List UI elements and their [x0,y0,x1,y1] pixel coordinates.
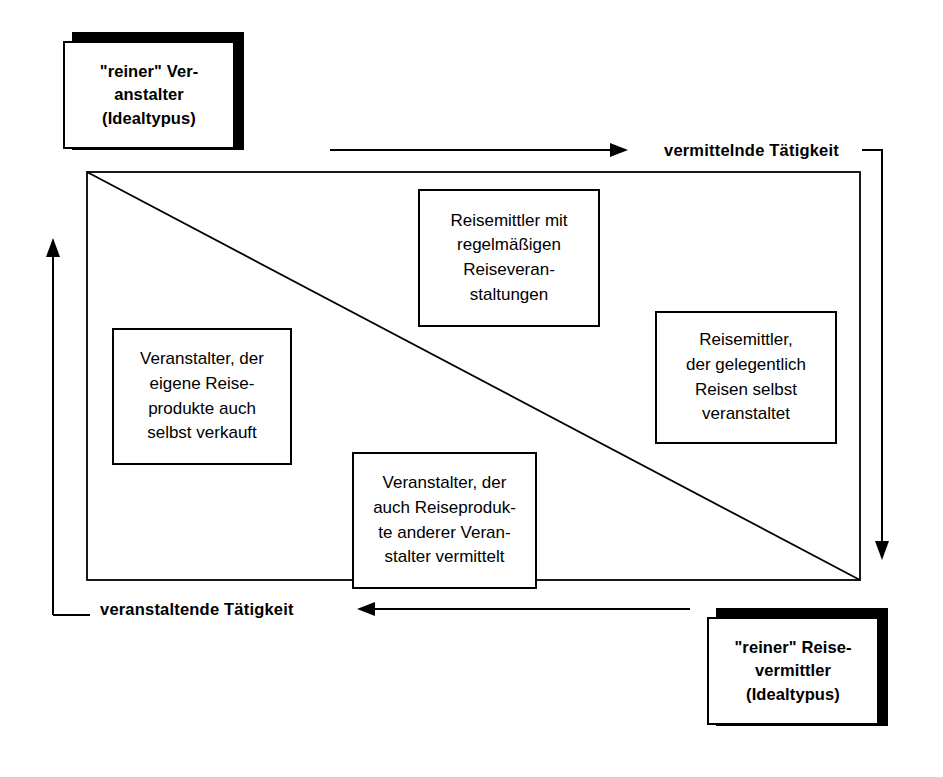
ideal-type-reiner-veranstalter[interactable]: "reiner" Ver- anstalter (Idealtypus) [63,41,235,149]
ideal-type-reiner-reisevermittler-label: "reiner" Reise- vermittler (Idealtypus) [709,636,877,706]
category-box-reisemittler-gelegentlich[interactable]: Reisemittler, der gelegentlich Reisen se… [655,311,837,444]
category-box-veranstalter-eigene[interactable]: Veranstalter, der eigene Reise- produkte… [112,328,292,465]
category-box-veranstalter-vermittelt[interactable]: Veranstalter, der auch Reiseproduk- te a… [352,452,537,589]
diagram-canvas: "reiner" Ver- anstalter (Idealtypus) "re… [0,0,943,777]
bottom-axis-arrowhead [357,602,375,616]
ideal-type-reiner-reisevermittler[interactable]: "reiner" Reise- vermittler (Idealtypus) [707,617,879,725]
right-axis-arrowhead [875,541,889,560]
ideal-type-reiner-veranstalter-label: "reiner" Ver- anstalter (Idealtypus) [65,60,233,130]
category-box-reisemittler-gelegentlich-label: Reisemittler, der gelegentlich Reisen se… [657,328,835,427]
axis-label-veranstaltende-taetigkeit: veranstaltende Tätigkeit [100,600,294,619]
category-box-reisemittler-regelmaessig[interactable]: Reisemittler mit regelmäßigen Reiseveran… [418,189,600,327]
left-axis-arrowhead [46,238,60,257]
category-box-veranstalter-eigene-label: Veranstalter, der eigene Reise- produkte… [114,347,290,446]
right-axis-elbow [862,150,882,545]
top-axis-arrowhead [610,143,628,157]
category-box-reisemittler-regelmaessig-label: Reisemittler mit regelmäßigen Reiseveran… [420,209,598,308]
category-box-veranstalter-vermittelt-label: Veranstalter, der auch Reiseproduk- te a… [354,471,535,570]
axis-label-vermittelnde-taetigkeit: vermittelnde Tätigkeit [664,141,839,160]
